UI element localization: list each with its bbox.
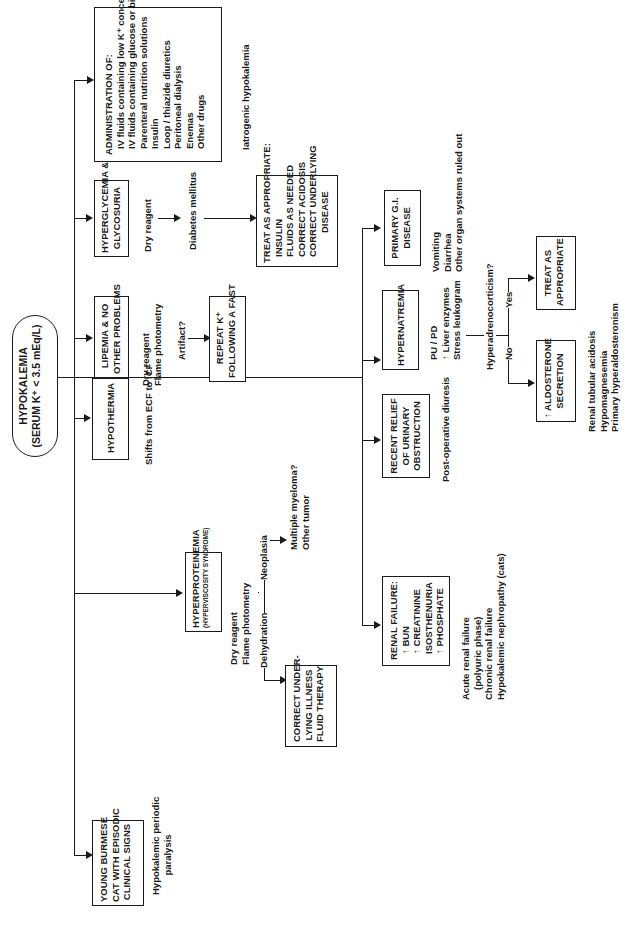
arrow-hypothermia-icon xyxy=(84,414,91,422)
branch-hyperproteinemia-line xyxy=(74,593,178,594)
neoplasia-result2: Other tumor xyxy=(300,464,312,550)
neoplasia-result1: Multiple myeloma? xyxy=(288,464,300,550)
hyperglycemia-line1: HYPERGLYCEMIA & xyxy=(99,183,111,253)
treat-item: DISEASE xyxy=(319,143,331,263)
hypernatremia-label: HYPERNATREMIA xyxy=(395,294,407,366)
renal-note: Acute renal failure xyxy=(460,553,472,700)
hypernatremia-note: ↑ Liver enzymes xyxy=(440,280,452,360)
hypothermia-label: HYPOTHERMIA xyxy=(105,380,117,456)
treat-item: FLUIDS AS NEEDED xyxy=(284,143,296,263)
repeat-k-label: REPEAT K⁺ FOLLOWING A FAST xyxy=(214,298,237,378)
hyperadrenocorticism-question: Hyperadrenocorticism? xyxy=(484,263,496,370)
aldosterone-note: Primary hyperaldosteronism xyxy=(609,303,621,432)
diabetes-mellitus: Diabetes mellitus xyxy=(187,172,199,250)
urinary-line3: OBSTRUCTION xyxy=(411,398,423,474)
repeat-line1: REPEAT K⁺ xyxy=(214,298,226,378)
neoplasia-label: Neoplasia xyxy=(258,535,270,580)
treat-appropriate-line1: TREAT AS xyxy=(542,240,554,306)
hypernatremia-note: PU / PD xyxy=(428,280,440,360)
treat-item: CORRECT UNDERLYING xyxy=(307,143,319,263)
urinary-line1: RECENT RELIEF xyxy=(388,398,400,474)
aldosterone-note: Hypomagnesemia xyxy=(598,303,610,432)
arrow-renal-icon xyxy=(374,621,381,629)
administration-item: Other drugs xyxy=(195,0,207,155)
diabetes-to-treat-line xyxy=(204,218,252,219)
correct-line2: LYING ILLNESS xyxy=(303,668,315,742)
no-label: No xyxy=(503,347,515,360)
aldosterone-notes: Renal tubular acidosis Hypomagnesemia Pr… xyxy=(586,303,621,432)
hyperproteinemia-method2: Flame photometry xyxy=(240,583,252,665)
renal-item: ↑ CREATININE xyxy=(411,581,423,660)
arrow-diabetes-icon xyxy=(174,214,181,222)
treat-item: INSULIN xyxy=(273,143,285,263)
paralysis-line1: Hypokalemic periodic xyxy=(150,815,162,895)
hyperproteinemia-subtitle: (HYPERVISCOSITY SYNDROME) xyxy=(202,556,210,628)
treat-appropriate-line2: APPROPRIATE xyxy=(554,240,566,306)
arrow-lipemia-icon xyxy=(86,334,93,342)
burmese-line2: CAT WITH EPISODIC xyxy=(110,822,122,902)
treat-diabetes-text: TREAT AS APPROPRIATE: INSULIN FLUIDS AS … xyxy=(261,143,330,263)
arrow-hyperglycemia-icon xyxy=(86,214,93,222)
lipemia-line1: LIPEMIA & NO xyxy=(99,298,111,374)
hyperproteinemia-method1: Dry reagent xyxy=(228,583,240,665)
administration-text: ADMINISTRATION OF: IV fluids containing … xyxy=(103,0,207,155)
arrow-hyperproteinemia-icon xyxy=(176,589,183,597)
root-subtitle: (SERUM K⁺ < 3.5 mEq/L) xyxy=(30,322,43,450)
primary-gi-line1: PRIMARY G.I. xyxy=(389,194,401,262)
root-label: HYPOKALEMIA (SERUM K⁺ < 3.5 mEq/L) xyxy=(17,322,43,450)
hypernatremia-notes: PU / PD ↑ Liver enzymes Stress leukogram xyxy=(428,280,463,360)
correct-underlying-label: CORRECT UNDER- LYING ILLNESS FLUID THERA… xyxy=(291,668,326,742)
administration-item: Parenteral nutrition solutions xyxy=(138,0,150,155)
gi-note: Other organ systems ruled out xyxy=(453,134,465,272)
root-title: HYPOKALEMIA xyxy=(17,322,30,450)
treat-appropriate-label: TREAT AS APPROPRIATE xyxy=(542,240,565,306)
administration-item: IV fluids containing glucose or bicarbon… xyxy=(126,0,138,155)
correct-line3: FLUID THERAPY xyxy=(314,668,326,742)
administration-item: IV fluids containing low K⁺ concentratio… xyxy=(115,0,127,155)
hyperglycemia-dry-reagent: Dry reagent xyxy=(142,199,154,252)
left-trunk-line xyxy=(74,80,75,856)
arrow-no-icon xyxy=(528,379,535,387)
hyperglycemia-line2: GLYCOSURIA xyxy=(111,183,123,253)
hypothermia-note: Shifts from ECF to ICF xyxy=(143,364,155,465)
renal-note: Chronic renal failure xyxy=(483,553,495,700)
iatrogenic-note: Iatrogenic hypokalemia xyxy=(240,44,252,150)
aldosterone-line2: SECRETION xyxy=(554,344,566,418)
yes-arrow-line xyxy=(508,278,530,279)
post-operative-note: Post-operative diuresis xyxy=(440,377,452,482)
aldosterone-label: ↑ ALDOSTERONE SECRETION xyxy=(542,344,565,418)
right-trunk-line xyxy=(362,228,363,626)
burmese-line1: YOUNG BURMESE xyxy=(98,822,110,902)
aldosterone-note: Renal tubular acidosis xyxy=(586,303,598,432)
hyperproteinemia-methods: Dry reagent Flame photometry xyxy=(228,583,251,665)
artifact-question: Artifact? xyxy=(176,321,188,360)
arrow-primary-gi-icon xyxy=(374,224,381,232)
no-arrow-line xyxy=(508,383,530,384)
periodic-paralysis-note: Hypokalemic periodic paralysis xyxy=(150,815,173,895)
renal-failure-notes: Acute renal failure (polyuric phase) Chr… xyxy=(460,553,506,700)
repeat-line2: FOLLOWING A FAST xyxy=(226,298,238,378)
renal-item: ↑ BUN xyxy=(400,581,412,660)
treat-item: CORRECT ACIDOSIS xyxy=(296,143,308,263)
lipemia-label: LIPEMIA & NO OTHER PROBLEMS xyxy=(99,298,122,374)
primary-gi-notes: Vomiting Diarrhea Other organ systems ru… xyxy=(430,134,465,272)
dehydration-label: Dehydration xyxy=(258,613,270,668)
administration-heading: ADMINISTRATION OF: xyxy=(103,0,115,155)
arrow-urinary-icon xyxy=(374,436,381,444)
renal-heading: RENAL FAILURE: xyxy=(388,581,400,660)
arrow-yes-icon xyxy=(528,274,535,282)
aldosterone-line1: ↑ ALDOSTERONE xyxy=(542,344,554,418)
renal-failure-text: RENAL FAILURE: ↑ BUN ↑ CREATININE ISOSTH… xyxy=(388,581,446,660)
hyperproteinemia-split-stem xyxy=(258,592,259,593)
primary-gi-line2: DISEASE xyxy=(401,194,413,262)
gi-note: Vomiting xyxy=(430,134,442,272)
renal-item: ISOSTHENURIA xyxy=(423,581,435,660)
primary-gi-label: PRIMARY G.I. DISEASE xyxy=(389,194,412,262)
urinary-obstruction-label: RECENT RELIEF OF URINARY OBSTRUCTION xyxy=(388,398,423,474)
yes-label: Yes xyxy=(503,292,515,308)
administration-item: Peritoneal dialysis xyxy=(172,0,184,155)
correct-line1: CORRECT UNDER- xyxy=(291,668,303,742)
burmese-line3: CLINICAL SIGNS xyxy=(121,822,133,902)
hyperproteinemia-title: HYPERPROTEINEMIA xyxy=(190,556,202,628)
hyperglycemia-label: HYPERGLYCEMIA & GLYCOSURIA xyxy=(99,183,122,253)
